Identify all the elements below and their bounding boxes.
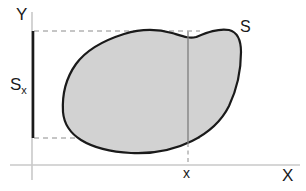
sx-bracket-label: Sx: [10, 76, 27, 96]
sx-subscript: x: [21, 84, 27, 96]
region-label-s: S: [240, 19, 251, 35]
x-axis-label: X: [282, 167, 293, 184]
diagram-canvas: Y X S x Sx: [0, 0, 306, 191]
diagram-svg: [0, 0, 306, 191]
region-shape-s: [63, 30, 241, 154]
x-point-tick-label: x: [183, 166, 190, 180]
y-axis-label: Y: [16, 6, 27, 23]
sx-base: S: [10, 75, 21, 94]
